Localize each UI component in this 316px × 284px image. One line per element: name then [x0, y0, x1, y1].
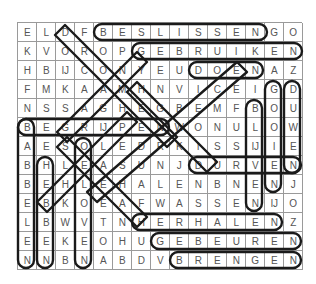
grid-cell[interactable]: N	[284, 232, 303, 251]
grid-cell[interactable]: A	[75, 80, 94, 99]
grid-cell[interactable]: W	[284, 118, 303, 137]
grid-cell[interactable]: P	[113, 42, 132, 61]
grid-cell[interactable]: B	[170, 99, 189, 118]
grid-cell[interactable]: K	[170, 137, 189, 156]
grid-cell[interactable]: R	[151, 137, 170, 156]
grid-cell[interactable]: IJ	[246, 137, 265, 156]
grid-cell[interactable]: J	[284, 175, 303, 194]
grid-cell[interactable]: A	[94, 156, 113, 175]
grid-cell[interactable]: B	[246, 99, 265, 118]
grid-cell[interactable]: E	[265, 232, 284, 251]
grid-cell[interactable]: E	[189, 99, 208, 118]
grid-cell[interactable]: G	[265, 80, 284, 99]
grid-cell[interactable]: M	[37, 80, 56, 99]
grid-cell[interactable]: E	[151, 61, 170, 80]
grid-cell[interactable]: L	[37, 23, 56, 42]
grid-cell[interactable]: B	[113, 251, 132, 270]
grid-cell[interactable]: E	[227, 61, 246, 80]
grid-cell[interactable]: H	[18, 61, 37, 80]
grid-cell[interactable]: E	[37, 232, 56, 251]
grid-cell[interactable]: IJ	[94, 118, 113, 137]
grid-cell[interactable]: G	[151, 232, 170, 251]
grid-cell[interactable]: N	[246, 23, 265, 42]
grid-cell[interactable]: L	[75, 175, 94, 194]
grid-cell[interactable]: U	[208, 42, 227, 61]
grid-cell[interactable]: E	[208, 232, 227, 251]
grid-cell[interactable]: E	[246, 175, 265, 194]
grid-cell[interactable]: U	[132, 156, 151, 175]
grid-cell[interactable]: L	[151, 23, 170, 42]
grid-cell[interactable]: IJ	[265, 194, 284, 213]
grid-cell[interactable]: E	[170, 232, 189, 251]
grid-cell[interactable]: F	[75, 23, 94, 42]
grid-cell[interactable]: C	[208, 80, 227, 99]
grid-cell[interactable]: E	[151, 42, 170, 61]
grid-cell[interactable]: O	[208, 61, 227, 80]
grid-cell[interactable]: E	[265, 156, 284, 175]
grid-cell[interactable]: A	[94, 251, 113, 270]
grid-cell[interactable]: I	[189, 137, 208, 156]
grid-cell[interactable]: N	[227, 251, 246, 270]
grid-cell[interactable]: O	[94, 61, 113, 80]
grid-cell[interactable]: U	[170, 61, 189, 80]
grid-cell[interactable]: N	[284, 156, 303, 175]
grid-cell[interactable]: P	[113, 118, 132, 137]
grid-cell[interactable]: D	[132, 251, 151, 270]
grid-cell[interactable]: V	[170, 80, 189, 99]
grid-cell[interactable]: S	[208, 137, 227, 156]
grid-cell[interactable]: S	[56, 99, 75, 118]
grid-cell[interactable]: C	[75, 61, 94, 80]
grid-cell[interactable]: B	[189, 232, 208, 251]
grid-cell[interactable]: S	[132, 23, 151, 42]
grid-cell[interactable]: W	[151, 194, 170, 213]
grid-cell[interactable]: L	[94, 137, 113, 156]
grid-cell[interactable]: E	[94, 175, 113, 194]
grid-cell[interactable]: D	[132, 137, 151, 156]
grid-cell[interactable]: R	[75, 42, 94, 61]
grid-cell[interactable]: N	[189, 175, 208, 194]
grid-cell[interactable]: Z	[284, 213, 303, 232]
grid-cell[interactable]: U	[227, 232, 246, 251]
grid-cell[interactable]: N	[37, 251, 56, 270]
grid-cell[interactable]: E	[18, 232, 37, 251]
grid-cell[interactable]: E	[151, 213, 170, 232]
grid-cell[interactable]: E	[227, 80, 246, 99]
grid-cell[interactable]: I	[170, 23, 189, 42]
grid-cell[interactable]: D	[284, 80, 303, 99]
grid-cell[interactable]: O	[56, 42, 75, 61]
grid-cell[interactable]: K	[56, 194, 75, 213]
grid-cell[interactable]: B	[18, 118, 37, 137]
grid-cell[interactable]: B	[18, 175, 37, 194]
grid-cell[interactable]: G	[151, 99, 170, 118]
grid-cell[interactable]: E	[170, 175, 189, 194]
grid-cell[interactable]: E	[208, 251, 227, 270]
grid-cell[interactable]: F	[227, 99, 246, 118]
grid-cell[interactable]: I	[246, 80, 265, 99]
grid-cell[interactable]: K	[56, 232, 75, 251]
grid-cell[interactable]: G	[132, 42, 151, 61]
grid-cell[interactable]: E	[94, 194, 113, 213]
grid-cell[interactable]: M	[113, 80, 132, 99]
grid-cell[interactable]: H	[132, 80, 151, 99]
grid-cell[interactable]: E	[132, 99, 151, 118]
grid-cell[interactable]: D	[189, 156, 208, 175]
grid-cell[interactable]: E	[227, 23, 246, 42]
grid-cell[interactable]: H	[37, 156, 56, 175]
grid-cell[interactable]: D	[189, 61, 208, 80]
grid-cell[interactable]: N	[18, 251, 37, 270]
grid-cell[interactable]: V	[75, 213, 94, 232]
grid-cell[interactable]: N	[113, 61, 132, 80]
grid-cell[interactable]: V	[151, 251, 170, 270]
grid-cell[interactable]: A	[170, 194, 189, 213]
grid-cell[interactable]: O	[265, 118, 284, 137]
grid-cell[interactable]: R	[75, 118, 94, 137]
grid-cell[interactable]: S	[189, 194, 208, 213]
grid-cell[interactable]: S	[37, 99, 56, 118]
grid-cell[interactable]: E	[75, 156, 94, 175]
grid-cell[interactable]: E	[265, 251, 284, 270]
grid-cell[interactable]: E	[75, 232, 94, 251]
grid-cell[interactable]: N	[113, 213, 132, 232]
grid-cell[interactable]: B	[208, 175, 227, 194]
grid-cell[interactable]: R	[189, 42, 208, 61]
grid-cell[interactable]: N	[18, 99, 37, 118]
